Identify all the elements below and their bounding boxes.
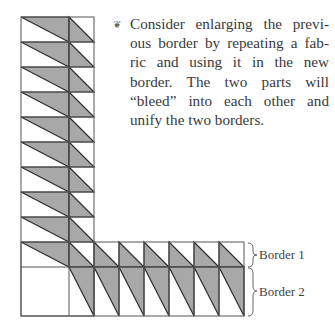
brace-border-2	[248, 268, 257, 316]
tip-line: Consider enlarging the previ-	[113, 14, 329, 33]
border-2-row	[69, 267, 244, 316]
tip-line: unify the two borders.	[113, 110, 329, 129]
border-1-row	[69, 242, 244, 267]
tip-line: ric and using it in the new	[113, 52, 329, 71]
tip-line: border. The two parts will	[113, 72, 329, 91]
braces	[248, 243, 257, 316]
tip-paragraph: ❦ Consider enlarging the previ- ous bord…	[113, 14, 329, 129]
border-1-label: Border 1	[259, 247, 305, 263]
brace-border-1	[248, 243, 257, 267]
tip-line: “bleed” into each other and	[113, 91, 329, 110]
tip-line: ous border by repeating a fab-	[113, 33, 329, 52]
ornament-icon: ❦	[113, 15, 121, 34]
border-2-label: Border 2	[259, 284, 305, 300]
